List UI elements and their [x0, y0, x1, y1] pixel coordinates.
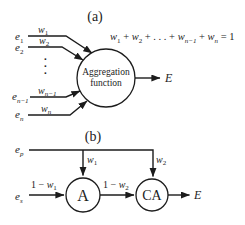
branch-weight-w2: w2 [156, 154, 167, 167]
vertical-ellipsis: ... [44, 50, 47, 76]
input-label-es: es [15, 190, 23, 205]
input-label-en-1: en−1 [12, 90, 29, 105]
panel-b-label: (b) [85, 129, 102, 145]
weight-sum-formula: w1 + w2 + . . . + wn−1 + wn = 1 [110, 31, 235, 45]
branch-weight-w1: w1 [87, 154, 98, 167]
input-arrow-en [28, 101, 87, 115]
input-arrow-e2 [28, 47, 83, 60]
input-label-ep: ep [15, 143, 24, 158]
aggregation-node-label-line2: function [90, 78, 122, 88]
aggregation-node-label-line1: Aggregation [82, 67, 130, 77]
diagram-svg: (a) w1 + w2 + . . . + wn−1 + wn = 1 e1 w… [0, 0, 245, 225]
node-ca-label: CA [142, 188, 162, 203]
weight-label-wn-1: wn−1 [38, 85, 56, 98]
output-label-b: E [193, 188, 202, 202]
input-label-en: en [15, 108, 24, 123]
output-label-a: E [164, 71, 173, 85]
figure-aggregation-diagram: (a) w1 + w2 + . . . + wn−1 + wn = 1 e1 w… [0, 0, 245, 225]
input-arrow-e1 [28, 36, 92, 53]
node-a-label: A [77, 187, 89, 204]
edge-label-1-minus-w1: 1 − w1 [31, 179, 57, 192]
edge-label-1-minus-w2: 1 − w2 [103, 179, 129, 192]
panel-a-label: (a) [87, 9, 103, 25]
weight-label-wn: wn [41, 103, 52, 116]
